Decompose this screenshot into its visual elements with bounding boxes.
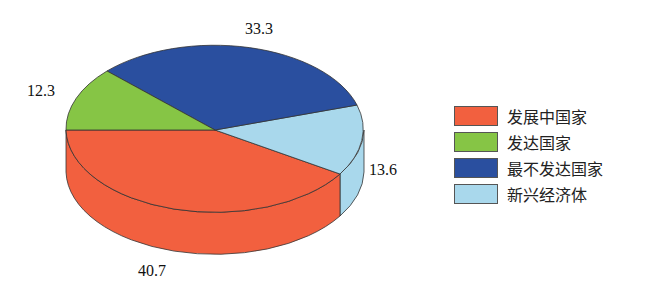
legend-label: 最不发达国家 [507,156,603,180]
legend-swatch [454,158,498,178]
label-least-developed: 33.3 [245,20,273,38]
legend-swatch [454,132,498,152]
label-emerging: 13.6 [369,161,397,179]
legend-swatch [454,106,498,126]
legend-item-developing: 发展中国家 [454,103,603,129]
legend-item-developed: 发达国家 [454,129,603,155]
legend-item-least-developed: 最不发达国家 [454,155,603,181]
label-developed: 12.3 [27,82,55,100]
legend-label: 新兴经济体 [507,182,587,206]
legend: 发展中国家 发达国家 最不发达国家 新兴经济体 [454,103,603,207]
label-developing: 40.7 [138,262,166,280]
legend-label: 发展中国家 [507,104,587,128]
legend-item-emerging: 新兴经济体 [454,181,603,207]
legend-swatch [454,184,498,204]
legend-label: 发达国家 [507,130,571,154]
